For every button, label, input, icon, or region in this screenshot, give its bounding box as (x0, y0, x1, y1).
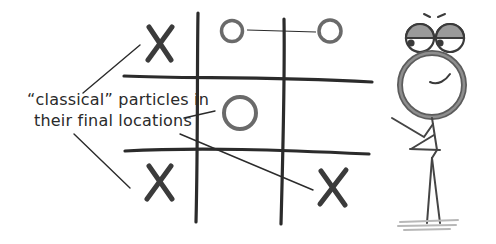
x-mark-top-left (148, 27, 172, 60)
grid-horizontal-line-2 (125, 149, 369, 154)
o-mark-center (224, 97, 256, 129)
pointing-arm (392, 118, 433, 137)
pointer-to-bottom-right-x (180, 134, 313, 190)
ground-shadow (398, 220, 458, 230)
o-mark-top-middle (222, 21, 243, 42)
goggles (406, 24, 464, 52)
x-mark-bottom-right (320, 170, 346, 205)
grid-vertical-line-2 (281, 19, 284, 224)
right-leg (432, 158, 440, 223)
o-marks (222, 20, 342, 129)
pointer-to-top-left-x (83, 45, 140, 93)
smile (430, 74, 450, 83)
o-mark-top-right (319, 20, 341, 42)
entanglement-line (247, 30, 316, 32)
body (392, 118, 440, 223)
annotation-line-2: their final locations (34, 111, 192, 131)
eyebrows (424, 14, 445, 17)
grid-horizontal-line-1 (124, 76, 372, 82)
diagram-canvas: “classical” particles in their final loc… (0, 0, 496, 244)
x-mark-bottom-left (147, 166, 172, 199)
grid-vertical-line-1 (196, 13, 198, 222)
annotation-line-1: “classical” particles in (27, 90, 209, 110)
stick-figure (392, 14, 464, 230)
pointer-to-bottom-left-x (74, 134, 130, 188)
left-leg (427, 158, 432, 223)
